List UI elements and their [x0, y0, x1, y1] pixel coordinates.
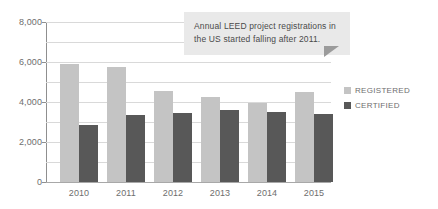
legend-item-certified: CERTIFIED — [344, 101, 410, 110]
legend-swatch-registered-icon — [344, 87, 351, 94]
gridline-4000 — [46, 102, 331, 103]
chart-legend: REGISTERED CERTIFIED — [344, 86, 410, 110]
annotation-text: Annual LEED project registrations in the… — [194, 20, 340, 46]
bar-registered-2013 — [201, 97, 220, 182]
y-tick-label-2000: 2,000 — [2, 137, 42, 147]
y-tick-label-6000: 6,000 — [2, 57, 42, 67]
y-tick-label-4000: 4,000 — [2, 97, 42, 107]
legend-label-certified: CERTIFIED — [355, 101, 400, 110]
annotation-callout-tail-icon — [324, 46, 339, 57]
x-tick-label-2014: 2014 — [257, 188, 277, 198]
x-tick-label-2012: 2012 — [163, 188, 183, 198]
gridline-baseline-0 — [46, 182, 331, 183]
x-tick-label-2015: 2015 — [304, 188, 324, 198]
x-tick-label-2010: 2010 — [69, 188, 89, 198]
bar-chart: 8,000 6,000 4,000 2,000 0 2010 2011 20 — [0, 0, 438, 209]
legend-label-registered: REGISTERED — [355, 86, 410, 95]
bar-registered-2012 — [154, 91, 173, 182]
y-tick-label-0: 0 — [2, 177, 42, 187]
x-tick-label-2013: 2013 — [210, 188, 230, 198]
y-axis-labels: 8,000 6,000 4,000 2,000 0 — [0, 0, 42, 209]
bar-certified-2014 — [267, 112, 286, 182]
bar-certified-2013 — [220, 110, 239, 182]
bar-certified-2010 — [79, 125, 98, 182]
bar-certified-2012 — [173, 113, 192, 182]
legend-swatch-certified-icon — [344, 102, 351, 109]
gridline-5000 — [46, 82, 331, 83]
bar-certified-2015 — [314, 114, 333, 182]
bar-registered-2015 — [295, 92, 314, 182]
bar-certified-2011 — [126, 115, 145, 182]
x-tick-label-2011: 2011 — [116, 188, 136, 198]
legend-item-registered: REGISTERED — [344, 86, 410, 95]
y-tick-label-8000: 8,000 — [2, 17, 42, 27]
bar-registered-2014 — [248, 103, 267, 182]
gridline-6000 — [46, 62, 331, 63]
bar-registered-2011 — [107, 67, 126, 182]
bar-registered-2010 — [60, 64, 79, 182]
